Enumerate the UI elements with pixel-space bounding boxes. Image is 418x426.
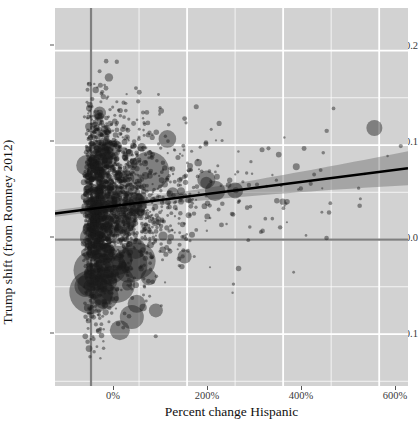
x-tick-mark-0pct xyxy=(113,386,114,390)
plot-panel xyxy=(55,8,408,386)
scatter-points xyxy=(69,59,403,360)
x-tick-mark-400pct xyxy=(301,386,302,390)
y-tick-mark-0.1 xyxy=(50,141,54,142)
scatter-chart-figure: Trump shift (from Romney 2012) 0.2 0.1 0… xyxy=(0,0,418,426)
x-tick-label-200pct: 200% xyxy=(177,390,237,401)
x-tick-label-400pct: 400% xyxy=(271,390,331,401)
y-tick-mark-0.2 xyxy=(50,45,54,46)
scatter-plot-canvas xyxy=(55,8,408,386)
x-tick-mark-600pct xyxy=(395,386,396,390)
y-tick-mark--0.1 xyxy=(50,333,54,334)
x-tick-label-600pct: 600% xyxy=(365,390,418,401)
x-tick-label-0pct: 0% xyxy=(83,390,143,401)
x-axis-title: Percent change Hispanic xyxy=(55,404,408,420)
x-tick-mark-200pct xyxy=(207,386,208,390)
y-axis-title: Trump shift (from Romney 2012) xyxy=(0,0,18,426)
y-axis-title-text: Trump shift (from Romney 2012) xyxy=(0,102,16,325)
y-tick-mark-0.0 xyxy=(50,237,54,238)
